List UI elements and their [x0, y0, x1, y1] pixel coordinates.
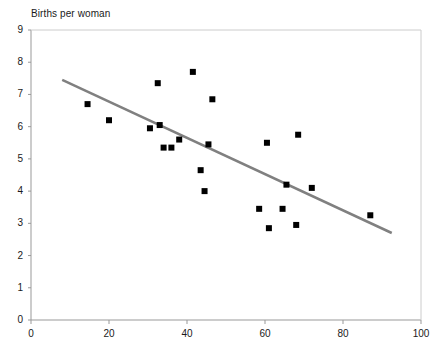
data-point-marker — [209, 96, 215, 102]
y-tick-label: 6 — [3, 121, 23, 132]
data-points — [85, 69, 374, 231]
data-point-marker — [106, 117, 112, 123]
data-point-marker — [309, 185, 315, 191]
data-point-marker — [161, 145, 167, 151]
data-point-marker — [283, 182, 289, 188]
data-point-marker — [256, 206, 262, 212]
data-point-marker — [147, 125, 153, 131]
x-tick-label: 40 — [172, 328, 202, 339]
x-tick-label: 100 — [406, 328, 436, 339]
data-point-marker — [280, 206, 286, 212]
x-tick-label: 60 — [250, 328, 280, 339]
data-point-marker — [367, 212, 373, 218]
data-point-marker — [266, 225, 272, 231]
data-point-marker — [176, 137, 182, 143]
data-point-marker — [157, 122, 163, 128]
y-tick-label: 1 — [3, 282, 23, 293]
x-tick-label: 20 — [94, 328, 124, 339]
x-tick-label: 0 — [16, 328, 46, 339]
data-point-marker — [295, 132, 301, 138]
data-point-marker — [264, 140, 270, 146]
y-tick-label: 9 — [3, 24, 23, 35]
x-tick-label: 80 — [328, 328, 358, 339]
y-tick-label: 3 — [3, 217, 23, 228]
data-point-marker — [190, 69, 196, 75]
x-axis-ticks — [31, 320, 421, 324]
scatter-chart: Births per woman 0123456789 020406080100 — [0, 0, 442, 345]
data-point-marker — [155, 80, 161, 86]
y-tick-label: 7 — [3, 88, 23, 99]
y-tick-label: 4 — [3, 185, 23, 196]
axis-lines — [31, 30, 421, 320]
trendline-segment — [62, 80, 392, 233]
data-point-marker — [202, 188, 208, 194]
data-point-marker — [198, 167, 204, 173]
y-tick-label: 8 — [3, 56, 23, 67]
data-point-marker — [85, 101, 91, 107]
trendline — [62, 80, 392, 233]
plot-svg — [0, 0, 442, 345]
y-tick-label: 2 — [3, 250, 23, 261]
y-tick-label: 0 — [3, 314, 23, 325]
data-point-marker — [293, 222, 299, 228]
y-tick-label: 5 — [3, 153, 23, 164]
data-point-marker — [168, 145, 174, 151]
data-point-marker — [205, 141, 211, 147]
